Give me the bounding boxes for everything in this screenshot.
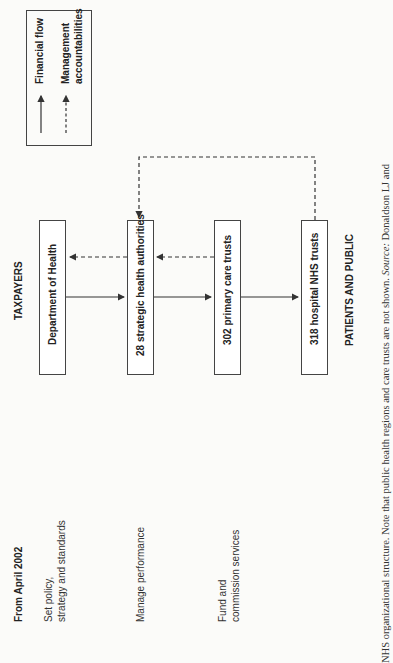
box-label-strategic-health-authorities: 28 strategic health authorities [135,214,146,356]
role-set-policy-line2: strategy and standards [55,520,68,622]
legend-financial-flow: Financial flow [34,18,45,84]
role-manage-performance: Manage performance [135,527,146,622]
role-set-policy-line1: Set policy, [42,520,55,622]
from-april-2002-label: From April 2002 [13,547,24,622]
legend-management-line1: Management [59,8,72,84]
box-label-hospital-nhs-trusts: 318 hospital NHS trusts [309,233,320,345]
legend-management-line2: accountabilities [72,8,85,84]
patients-public-label: PATIENTS AND PUBLIC [344,234,355,346]
figure-caption: NHS organizational structure. Note that … [380,164,391,663]
taxpayers-label: TAXPAYERS [13,261,24,320]
legend-management: Management accountabilities [59,8,85,84]
role-fund-commission: Fund and commission services [216,530,242,622]
role-set-policy: Set policy, strategy and standards [42,520,68,622]
role-fund-line2: commission services [229,530,242,622]
caption-source-label: Source: [380,243,391,275]
caption-text: NHS organizational structure. Note that … [380,278,391,663]
box-label-primary-care-trusts: 302 primary care trusts [222,235,233,345]
caption-source-text: Donaldson LJ and [380,164,391,240]
box-label-department-of-health: Department of Health [47,244,58,345]
role-fund-line1: Fund and [216,530,229,622]
